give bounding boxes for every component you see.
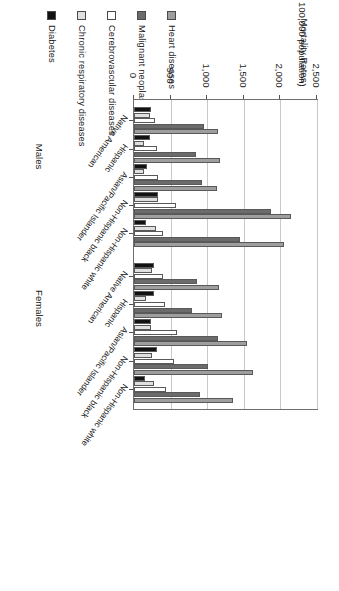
bar	[134, 398, 233, 403]
bar	[134, 347, 157, 352]
bar	[134, 392, 200, 397]
bar	[134, 124, 204, 129]
gridline	[244, 100, 245, 409]
panel-label: Males	[34, 132, 45, 182]
bar	[134, 175, 158, 180]
bar	[134, 319, 151, 324]
category-tick	[129, 361, 133, 362]
bar	[134, 308, 192, 313]
bar	[134, 203, 176, 208]
legend-swatch-icon	[138, 11, 147, 20]
bar	[134, 113, 150, 118]
bar	[134, 370, 253, 375]
panel-label: Females	[34, 284, 45, 334]
value-tick	[243, 95, 244, 99]
category-tick	[129, 389, 133, 390]
bar	[134, 243, 284, 248]
legend-swatch-icon	[108, 11, 117, 20]
legend-item: Diabetes	[43, 11, 61, 63]
category-tick	[129, 304, 133, 305]
legend-swatch-icon	[78, 11, 87, 20]
bar	[134, 152, 196, 157]
bar	[134, 192, 158, 197]
bar	[134, 341, 247, 346]
value-tick-label: 2,500	[311, 56, 322, 96]
value-tick-label: 2,000	[274, 56, 285, 96]
category-tick	[129, 332, 133, 333]
bar	[134, 268, 152, 273]
category-tick	[129, 276, 133, 277]
bar	[134, 381, 154, 386]
legend-swatch-icon	[48, 11, 57, 20]
legend-label: Diabetes	[47, 25, 56, 63]
bar	[134, 180, 202, 185]
legend-item: Chronic respiratory diseases	[73, 11, 91, 147]
legend-label: Chronic respiratory diseases	[77, 25, 86, 147]
bar	[134, 129, 218, 134]
bar	[134, 291, 154, 296]
bar	[134, 164, 147, 169]
bar	[134, 353, 152, 358]
bar	[134, 141, 144, 146]
bar	[134, 387, 166, 392]
bar	[134, 330, 177, 335]
bar	[134, 231, 163, 236]
category-tick	[129, 120, 133, 121]
bar	[134, 135, 150, 140]
bar	[134, 364, 208, 369]
bar	[134, 296, 146, 301]
value-tick	[133, 95, 134, 99]
value-tick-label: 0	[128, 56, 139, 96]
value-tick	[316, 95, 317, 99]
bar	[134, 158, 220, 163]
chart-figure: Heart diseasesMalignant neoplasmsCerebro…	[0, 0, 339, 591]
bar	[134, 209, 271, 214]
category-tick	[129, 234, 133, 235]
gridline	[317, 100, 318, 409]
bar	[134, 220, 146, 225]
bar	[134, 197, 158, 202]
value-tick-label: 500	[164, 56, 175, 96]
bar	[134, 285, 219, 290]
bar	[134, 274, 163, 279]
bar	[134, 359, 174, 364]
bar	[134, 237, 240, 242]
value-tick	[170, 95, 171, 99]
legend-swatch-icon	[168, 11, 177, 20]
bar	[134, 376, 145, 381]
value-tick	[279, 95, 280, 99]
value-tick-label: 1,500	[237, 56, 248, 96]
bar	[134, 263, 154, 268]
bar	[134, 186, 217, 191]
category-tick	[129, 205, 133, 206]
axis-title-line2: (per 100,000 population)	[297, 0, 308, 105]
value-tick	[206, 95, 207, 99]
bar	[134, 279, 197, 284]
category-tick	[129, 177, 133, 178]
value-tick-label: 1,000	[201, 56, 212, 96]
bar	[134, 336, 218, 341]
bar	[134, 107, 151, 112]
bar	[134, 302, 165, 307]
bar	[134, 313, 222, 318]
plot-area	[133, 99, 318, 410]
gridline	[280, 100, 281, 409]
bar	[134, 325, 151, 330]
legend-label: Cerebrovascular diseases	[107, 25, 116, 136]
bar	[134, 214, 291, 219]
gridline	[207, 100, 208, 409]
bar	[134, 169, 144, 174]
category-tick	[129, 149, 133, 150]
bar	[134, 118, 155, 123]
bar	[134, 146, 157, 151]
bar	[134, 226, 156, 231]
